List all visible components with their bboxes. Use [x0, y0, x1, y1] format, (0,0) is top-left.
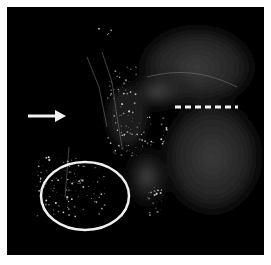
speckle	[48, 159, 49, 160]
speckle	[75, 158, 76, 159]
speckle	[97, 181, 98, 182]
speckle	[161, 189, 162, 190]
speckle	[149, 117, 151, 119]
speckle	[132, 121, 133, 122]
speckle	[110, 29, 112, 31]
speckle	[71, 190, 72, 191]
speckle	[52, 190, 54, 192]
speckle	[117, 130, 118, 131]
speckle	[46, 157, 48, 159]
speckle	[67, 179, 68, 180]
speckle	[42, 210, 43, 211]
speckle	[163, 118, 165, 120]
speckle	[98, 28, 100, 30]
speckle	[53, 213, 54, 214]
speckle	[99, 177, 100, 178]
speckle	[157, 189, 159, 191]
speckle	[79, 182, 80, 183]
speckle	[109, 81, 110, 82]
speckle	[136, 67, 137, 68]
speckle	[109, 85, 111, 87]
speckle	[83, 209, 84, 210]
speckle	[131, 155, 133, 157]
speckle	[116, 76, 118, 78]
speckle	[65, 174, 66, 175]
speckle	[163, 135, 164, 136]
speckle	[37, 215, 39, 217]
speckle	[155, 207, 157, 209]
speckle	[113, 151, 114, 152]
speckle	[132, 112, 134, 114]
speckle	[36, 186, 37, 187]
speckle	[166, 127, 168, 129]
speckle	[161, 195, 162, 196]
speckle	[136, 133, 138, 135]
speckle	[68, 187, 69, 188]
speckle	[61, 194, 62, 195]
speckle	[104, 204, 106, 206]
speckle	[48, 156, 50, 158]
speckle	[74, 173, 75, 174]
speckle	[99, 191, 100, 192]
speckle	[78, 183, 79, 184]
speckle	[91, 198, 92, 199]
speckle	[157, 211, 159, 213]
speckle	[125, 79, 127, 81]
speckle	[76, 191, 77, 192]
speckle	[110, 89, 112, 91]
speckle	[94, 201, 95, 202]
speckle	[135, 93, 137, 95]
speckle	[71, 198, 73, 200]
speckle	[123, 113, 125, 115]
speckle	[149, 212, 150, 213]
speckle	[82, 186, 84, 188]
speckle	[131, 133, 133, 135]
speckle	[108, 33, 109, 34]
speckle	[42, 165, 43, 166]
speckle	[101, 193, 103, 195]
speckle	[119, 115, 120, 116]
speckle	[56, 192, 57, 193]
speckle	[93, 193, 94, 194]
speckle	[114, 110, 115, 111]
speckle	[148, 192, 149, 193]
speckle	[49, 196, 50, 197]
speckle	[107, 34, 108, 35]
speckle	[121, 103, 122, 104]
speckle	[128, 68, 129, 69]
speckle	[68, 214, 70, 216]
speckle	[132, 152, 133, 153]
speckle	[147, 117, 148, 118]
speckle	[69, 166, 70, 167]
speckle	[161, 201, 162, 202]
speckle	[74, 182, 75, 183]
speckle	[121, 132, 122, 133]
speckle	[113, 115, 115, 117]
speckle	[162, 118, 163, 119]
speckle	[57, 217, 58, 218]
speckle	[115, 78, 116, 79]
speckle	[126, 145, 127, 146]
speckle	[56, 178, 57, 179]
speckle	[81, 179, 82, 180]
speckle	[126, 131, 128, 133]
speckle	[87, 176, 88, 177]
speckle	[153, 142, 154, 143]
speckle	[103, 176, 104, 177]
speckle	[45, 176, 46, 177]
speckle	[128, 145, 129, 146]
speckle	[135, 135, 136, 136]
speckle	[80, 180, 82, 182]
speckle	[131, 129, 132, 130]
speckle	[92, 165, 93, 166]
speckle	[143, 131, 145, 133]
speckle	[132, 118, 133, 119]
speckle	[50, 188, 51, 189]
speckle	[127, 67, 128, 68]
speckle	[77, 196, 78, 197]
speckle	[121, 135, 123, 137]
speckle	[129, 132, 131, 134]
speckle	[70, 171, 71, 172]
speckle	[120, 73, 121, 74]
speckle	[38, 190, 40, 192]
